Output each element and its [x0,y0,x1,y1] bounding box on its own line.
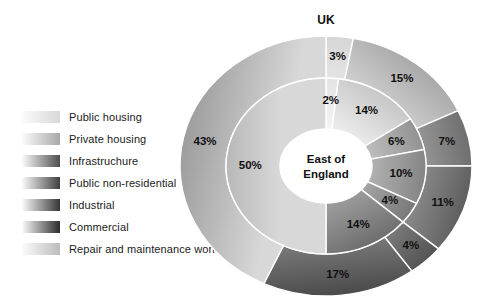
slice-label: 10% [390,167,413,179]
center-label-line: England [303,168,348,180]
legend-item-label: Infrastruchure [69,155,138,167]
center-label-line: East of [307,153,346,165]
slice-label: 17% [326,268,349,280]
donut-chart: East ofEngland3%15%7%11%4%17%43%2%14%6%1… [178,18,474,304]
slice-label: 4% [403,239,420,251]
slice-label: 14% [347,218,370,230]
legend-item-label: Public housing [69,111,142,123]
legend-swatch [22,111,60,123]
slice-label: 14% [355,104,378,116]
legend-item-label: Industrial [69,199,115,211]
slice-label: 7% [439,135,456,147]
legend-item-label: Public non-residential [69,177,176,189]
legend-item-label: Commercial [69,221,129,233]
legend-swatch [22,243,60,255]
slice-label: 4% [382,194,399,206]
legend-swatch [22,199,60,211]
slice-label: 6% [388,135,405,147]
slice-label: 11% [431,196,453,208]
chart-root: Public housingPrivate housingInfrastruch… [0,0,482,304]
slice-label: 2% [322,94,339,106]
legend-swatch [22,221,60,233]
legend-swatch [22,155,60,167]
legend-swatch [22,177,60,189]
legend-swatch [22,133,60,145]
donut-svg: East ofEngland3%15%7%11%4%17%43%2%14%6%1… [178,18,474,304]
center-ellipse [281,130,371,202]
slice-label: 50% [239,159,262,171]
slice-label: 43% [194,135,217,147]
slice-label: 3% [329,50,346,62]
slice-label: 15% [390,72,413,84]
legend-item-label: Private housing [69,133,146,145]
chart-title: UK [317,13,335,27]
donut-center: East ofEngland [281,130,371,202]
